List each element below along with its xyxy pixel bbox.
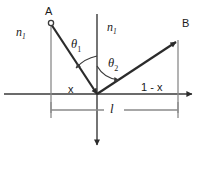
point-a-marker [48, 20, 53, 25]
label-theta2-sub: 2 [114, 64, 118, 73]
label-refractive-index-top: n1 [107, 21, 117, 36]
incident-ray [51, 24, 97, 94]
label-refractive-index-left: n1 [16, 26, 26, 41]
label-segment-one-minus-x: 1 - x [141, 82, 162, 93]
dimension-line-total [51, 102, 178, 118]
optics-diagram: A B n1 n1 θ1 θ2 x 1 - x l [0, 0, 205, 184]
label-segment-x: x [68, 84, 74, 95]
label-theta2: θ2 [108, 57, 118, 73]
label-theta1-sub: 1 [77, 45, 81, 54]
label-theta1: θ1 [71, 38, 81, 54]
diagram-canvas [0, 0, 205, 184]
label-point-a: A [45, 6, 52, 17]
label-total-length: l [110, 102, 114, 115]
label-point-b: B [182, 18, 189, 29]
label-n-left-sub: 1 [22, 32, 26, 41]
label-n-top-sub: 1 [113, 27, 117, 36]
